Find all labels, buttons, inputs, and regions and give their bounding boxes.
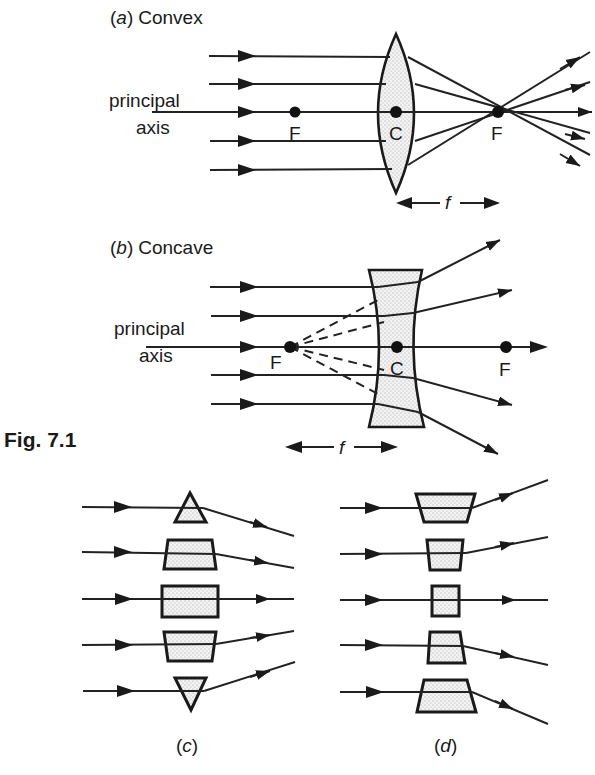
focal-length-indicator-b: f: [285, 437, 398, 458]
panel-d-label: (d): [434, 735, 457, 756]
block-4-d: [428, 632, 465, 663]
rays-c: [82, 501, 295, 697]
left-focus-label-b: F: [270, 352, 282, 373]
panel-b-title: (b)Concave: [110, 237, 213, 258]
left-focus-label-a: F: [289, 123, 301, 144]
optical-center-a: [390, 106, 402, 118]
panel-b-concave: (b)Concave principal axis: [110, 237, 548, 458]
block-3-c: [162, 586, 218, 617]
focal-length-indicator-a: f: [396, 192, 500, 213]
panel-a-title: (a)Convex: [110, 7, 203, 28]
principal-axis-label-a1: principal: [109, 90, 180, 111]
incoming-rays-b: [146, 281, 548, 410]
block-5-d: [417, 680, 476, 712]
center-label-b: C: [390, 358, 404, 379]
panel-c-label: (c): [176, 735, 198, 756]
block-2-d: [427, 540, 463, 570]
principal-axis-label-a2: axis: [136, 117, 170, 138]
right-focus-point-a: [492, 106, 504, 118]
right-focus-point-b: [500, 341, 512, 353]
principal-axis-label-b1: principal: [114, 318, 185, 339]
right-focus-label-a: F: [491, 123, 503, 144]
svg-text:f: f: [339, 437, 346, 458]
panel-d-prism-stack-concave: (d): [340, 480, 548, 756]
block-4-c: [164, 632, 216, 661]
right-focus-label-b: F: [499, 359, 511, 380]
left-focus-point-b: [284, 341, 296, 353]
panel-a-convex: (a)Convex principal axis: [109, 7, 592, 213]
optical-center-b: [391, 341, 403, 353]
panel-c-prism-stack-convex: (c): [82, 493, 295, 756]
figure-caption: Fig. 7.1: [4, 428, 77, 451]
prism-bottom-c: [175, 678, 206, 710]
lens-ray-diagram: (a)Convex principal axis: [0, 0, 595, 775]
center-label-a: C: [389, 123, 403, 144]
principal-axis-label-b2: axis: [139, 345, 173, 366]
left-focus-point-a: [290, 107, 301, 118]
svg-text:f: f: [445, 192, 452, 213]
